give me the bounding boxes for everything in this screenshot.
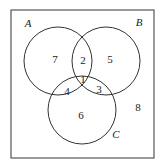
set-label-b: B: [136, 16, 143, 28]
region-a-c-only: 4: [64, 85, 70, 97]
set-label-c: C: [112, 128, 120, 140]
region-a-only: 7: [52, 53, 58, 65]
region-a-b-only: 2: [80, 54, 86, 66]
region-c-only: 6: [78, 109, 84, 121]
region-a-b-c: 1: [80, 73, 86, 85]
venn-diagram: A B C 7 2 5 1 4 3 6 8: [0, 0, 162, 167]
set-label-a: A: [24, 17, 32, 29]
region-b-only: 5: [107, 53, 113, 65]
region-b-c-only: 3: [96, 83, 102, 95]
region-outside: 8: [135, 101, 141, 113]
